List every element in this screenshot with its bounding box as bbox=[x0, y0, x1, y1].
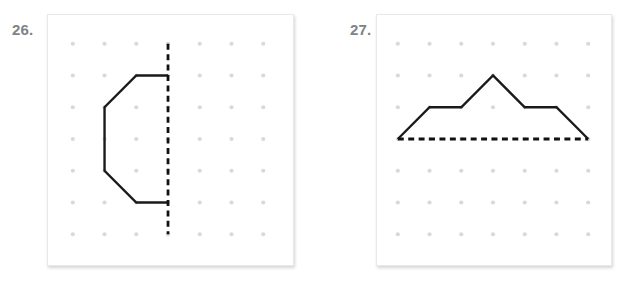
problem-number-label: 27. bbox=[350, 22, 371, 37]
worksheet-stage: 26. bbox=[0, 0, 629, 282]
geoboard-card-26 bbox=[47, 14, 294, 266]
geoboard-svg-27 bbox=[377, 15, 611, 265]
problem-27: 27. bbox=[320, 0, 629, 282]
problem-number-label: 26. bbox=[12, 22, 33, 37]
geoboard-svg-26 bbox=[48, 15, 293, 265]
geoboard-card-27 bbox=[376, 14, 612, 266]
problem-26: 26. bbox=[0, 0, 320, 282]
